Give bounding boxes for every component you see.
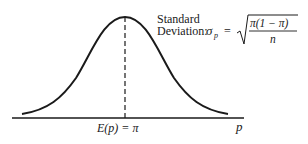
x-axis-label: p (235, 119, 243, 134)
mean-label: E(p) = π (96, 121, 139, 135)
formula-denominator: n (270, 33, 276, 45)
formula-numerator: π(1 − π) (250, 17, 289, 30)
sigma-subscript: p (213, 31, 218, 40)
sigma-symbol: σ (206, 23, 213, 38)
sampling-distribution-diagram: Standard Deviation: σ p = π(1 − π) n E(p… (0, 0, 308, 144)
sd-label-line2: Deviation: (157, 24, 208, 38)
equals-sign: = (224, 24, 231, 38)
